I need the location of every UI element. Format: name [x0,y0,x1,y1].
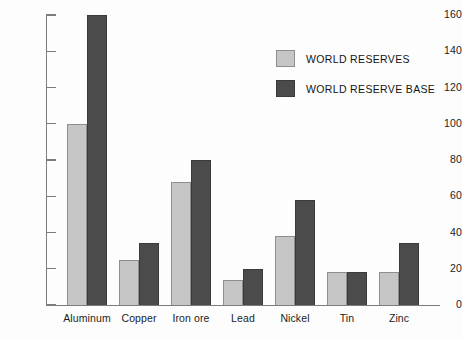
bar-group [67,15,107,305]
legend-label-world-reserve-base: WORLD RESERVE BASE [306,83,435,95]
bar [243,269,263,305]
bar [347,272,367,305]
bar [275,236,295,305]
bar [87,15,107,305]
bar [379,272,399,305]
legend-label-world-reserves: WORLD RESERVES [306,53,410,65]
bar [399,243,419,305]
bar-group [119,15,159,305]
bar-group [223,15,263,305]
chart-legend: WORLD RESERVES WORLD RESERVE BASE [276,50,435,110]
bar [223,280,243,305]
bar [119,260,139,305]
x-axis-line [46,305,440,306]
bar-group [171,15,211,305]
bar [139,243,159,305]
bar [191,160,211,305]
legend-swatch-world-reserves [276,50,295,67]
bar [67,124,87,305]
bar [295,200,315,305]
legend-item: WORLD RESERVE BASE [276,80,435,97]
legend-item: WORLD RESERVES [276,50,435,67]
x-axis-category-label: Zinc [359,312,439,324]
bar [327,272,347,305]
legend-swatch-world-reserve-base [276,80,295,97]
bar-chart: 020406080100120140160 AluminumCopperIron… [0,0,462,339]
bar [171,182,191,305]
